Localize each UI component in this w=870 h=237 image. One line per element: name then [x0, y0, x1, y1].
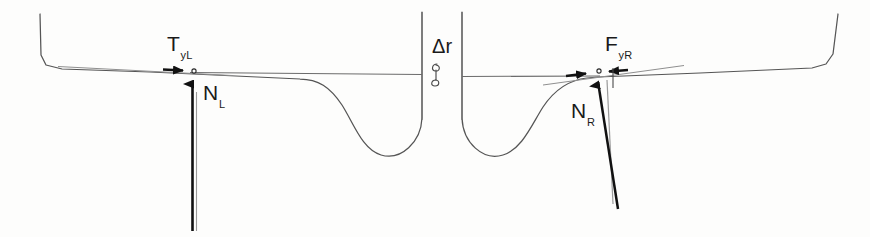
contact-point-left-marker: [192, 69, 196, 73]
label-normal-force-right-base: N: [571, 99, 586, 122]
label-force-right-subscript: yR: [619, 49, 633, 61]
tangential-force-left-arrow-group: [163, 70, 183, 71]
label-force-right: FyR: [605, 33, 632, 57]
normal-force-right-arrow-group: [599, 80, 619, 209]
label-normal-force-left-base: N: [203, 81, 218, 104]
delta-r-dimension-marker: [432, 64, 440, 86]
label-tangential-force-left: TyL: [167, 33, 192, 57]
label-tangential-force-left-base: T: [167, 32, 180, 55]
label-tangential-force-left-subscript: yL: [181, 49, 193, 61]
central-flange-walls: [422, 12, 462, 120]
reference-lines-group: [58, 66, 684, 86]
horizontal-reference-line: [190, 73, 422, 75]
label-normal-force-left: NL: [203, 82, 225, 106]
wheel-profile-diagram: TyL NL Δr FyR NR: [0, 0, 870, 237]
label-normal-force-left-subscript: L: [219, 98, 225, 110]
tangent-line-left: [58, 67, 232, 76]
label-normal-force-right-subscript: R: [587, 116, 595, 128]
profile-outline-right: [462, 12, 838, 156]
contact-point-markers: [192, 69, 601, 73]
normal-force-left-arrow-group: [193, 84, 197, 231]
label-force-right-base: F: [605, 32, 618, 55]
label-normal-force-right: NR: [571, 100, 595, 124]
horizontal-reference-line-right: [462, 76, 600, 77]
contact-point-right-marker: [597, 69, 601, 73]
force-right-arrow-outward: [609, 70, 628, 72]
label-delta-r: Δr: [432, 36, 452, 56]
tangential-force-left-arrow: [163, 70, 183, 71]
label-delta-r-base: Δr: [432, 35, 452, 57]
profile-outline-left: [40, 12, 422, 156]
